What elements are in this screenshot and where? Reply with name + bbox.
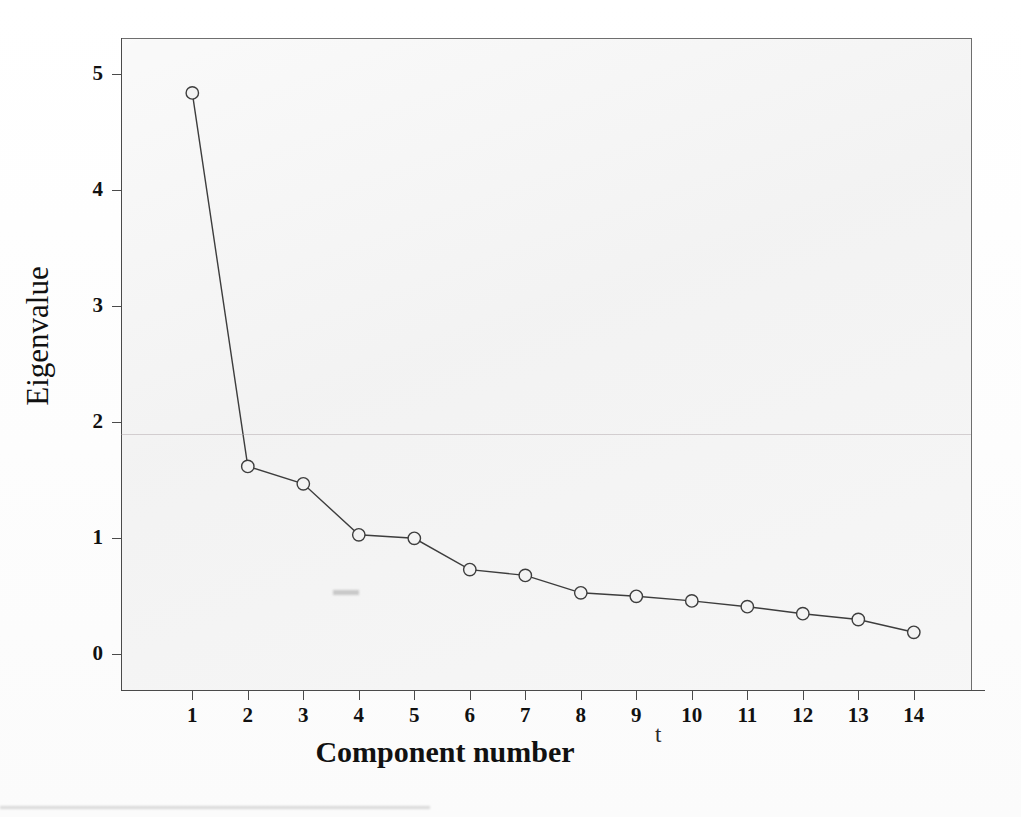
x-tick-mark [525,691,526,700]
y-tick-label: 1 [73,527,103,548]
x-tick-mark [914,691,915,700]
y-tick-label: 3 [73,295,103,316]
scan-artifact-mark: t [655,722,661,748]
x-tick-mark [248,691,249,700]
x-tick-mark [414,691,415,700]
x-tick-mark [581,691,582,700]
x-tick-label: 14 [894,705,934,726]
x-tick-label: 8 [561,705,601,726]
x-tick-label: 6 [450,705,490,726]
x-tick-label: 12 [783,705,823,726]
y-tick-mark [112,538,121,539]
x-tick-label: 11 [727,705,767,726]
plot-panel [121,38,972,691]
y-tick-mark [112,74,121,75]
x-tick-mark [192,691,193,700]
x-tick-label: 5 [394,705,434,726]
y-tick-label: 2 [73,411,103,432]
x-tick-mark [858,691,859,700]
scan-streak-artifact [121,434,971,435]
x-axis-title: Component number [245,735,645,769]
y-axis-line [121,38,122,691]
x-tick-label: 9 [616,705,656,726]
x-tick-label: 1 [172,705,212,726]
scree-plot-figure: 012345 1234567891011121314 Eigenvalue Co… [0,0,1021,817]
page-bottom-edge-artifact [0,806,430,809]
x-tick-mark [470,691,471,700]
y-tick-label: 0 [73,643,103,664]
x-tick-label: 13 [838,705,878,726]
y-tick-mark [112,306,121,307]
x-tick-mark [803,691,804,700]
y-tick-mark [112,422,121,423]
y-tick-label: 4 [73,179,103,200]
x-tick-label: 3 [283,705,323,726]
x-tick-mark [636,691,637,700]
x-tick-mark [359,691,360,700]
y-tick-label: 5 [73,63,103,84]
x-tick-mark [692,691,693,700]
y-tick-mark [112,190,121,191]
x-tick-mark [303,691,304,700]
x-tick-label: 2 [228,705,268,726]
y-tick-mark [112,654,121,655]
x-tick-label: 4 [339,705,379,726]
x-axis-line [121,690,985,691]
x-tick-label: 10 [672,705,712,726]
x-tick-label: 7 [505,705,545,726]
y-axis-title: Eigenvalue [20,236,56,436]
x-tick-mark [747,691,748,700]
scan-smudge-artifact [333,590,359,595]
